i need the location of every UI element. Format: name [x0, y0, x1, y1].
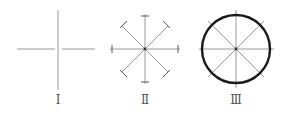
figure-3-label: Ⅲ [216, 93, 256, 107]
figure-1-cross [17, 10, 95, 90]
figure-1-label: Ⅰ [38, 93, 78, 107]
figure-2-label: Ⅱ [125, 93, 165, 107]
figure-2-rays [110, 14, 180, 84]
figure-3-circle [199, 10, 274, 88]
